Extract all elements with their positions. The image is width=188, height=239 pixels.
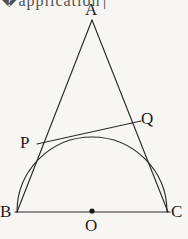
center-label-o: O: [85, 217, 97, 234]
point-label-p: P: [20, 134, 29, 151]
figure-canvas: �application⏐ A B C O P Q: [0, 0, 188, 239]
segment-pq: [37, 121, 141, 144]
segment-ab: [17, 20, 92, 212]
geometry-diagram: [0, 0, 188, 239]
center-point-dot: [89, 208, 94, 213]
point-label-q: Q: [141, 110, 153, 127]
segment-ac: [92, 20, 168, 212]
vertex-label-b: B: [0, 203, 11, 220]
semicircle-arc: [17, 137, 167, 212]
vertex-label-c: C: [171, 203, 182, 220]
vertex-label-a: A: [85, 1, 97, 18]
